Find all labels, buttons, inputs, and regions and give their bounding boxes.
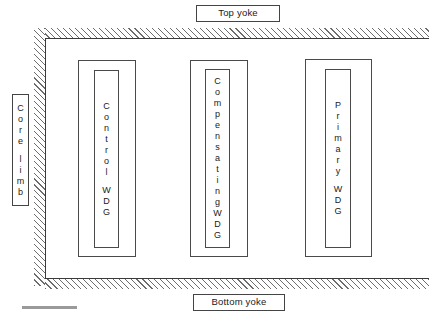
compensating-winding-char-0: C bbox=[214, 76, 221, 87]
transformer-core-diagram: Top yoke Core limb Control WDG Compensat… bbox=[0, 0, 429, 317]
compensating-winding-char-1: o bbox=[215, 87, 220, 98]
control-winding-char-1: o bbox=[104, 112, 109, 123]
core-window-left-edge bbox=[45, 38, 46, 279]
compensating-winding-char-10: n bbox=[215, 186, 220, 197]
control-winding-char-7 bbox=[105, 178, 108, 185]
control-winding-char-4: r bbox=[105, 145, 108, 156]
primary-winding-char-5: r bbox=[337, 155, 340, 166]
core-limb-char-4 bbox=[19, 147, 22, 154]
core-limb-char-5: l bbox=[20, 154, 22, 165]
compensating-winding-char-13: D bbox=[214, 219, 221, 230]
core-limb-char-2: r bbox=[19, 125, 22, 136]
control-winding-char-5: o bbox=[104, 156, 109, 167]
core-bottom-yoke-hatching bbox=[45, 278, 429, 289]
primary-winding-char-3: m bbox=[334, 133, 342, 144]
compensating-winding-char-4: e bbox=[215, 120, 220, 131]
primary-winding-char-2: i bbox=[337, 122, 339, 133]
primary-winding-char-7 bbox=[337, 177, 340, 184]
compensating-winding-char-12: W bbox=[213, 208, 222, 219]
control-winding-char-3: t bbox=[105, 134, 108, 145]
compensating-winding-char-5: n bbox=[215, 131, 220, 142]
compensating-winding-char-2: m bbox=[214, 98, 222, 109]
core-limb-char-7: m bbox=[17, 176, 25, 187]
winding-inner-primary: Primary WDG bbox=[325, 69, 351, 248]
control-winding-char-2: n bbox=[104, 123, 109, 134]
core-limb-char-1: o bbox=[18, 114, 23, 125]
primary-winding-char-0: P bbox=[335, 100, 341, 111]
winding-inner-control: Control WDG bbox=[94, 70, 119, 248]
compensating-winding-char-6: s bbox=[215, 142, 220, 153]
core-window-bottom-edge bbox=[45, 278, 429, 279]
control-winding-char-8: W bbox=[102, 185, 111, 196]
core-limb-char-0: C bbox=[17, 103, 24, 114]
compensating-winding-char-8: t bbox=[216, 164, 219, 175]
primary-winding-char-1: r bbox=[337, 111, 340, 122]
core-left-limb-hatching bbox=[34, 28, 45, 286]
primary-winding-char-4: a bbox=[335, 144, 340, 155]
compensating-winding-char-14: G bbox=[214, 230, 221, 241]
winding-inner-compensating: CompensatingWDG bbox=[205, 69, 230, 248]
core-window-top-edge bbox=[45, 38, 429, 39]
primary-winding-char-8: W bbox=[334, 184, 343, 195]
control-winding-char-10: G bbox=[103, 207, 110, 218]
control-winding-char-9: D bbox=[103, 196, 110, 207]
core-limb-char-6: i bbox=[20, 165, 22, 176]
compensating-winding-char-11: g bbox=[215, 197, 220, 208]
top-yoke-label: Top yoke bbox=[196, 5, 280, 22]
control-winding-char-0: C bbox=[103, 101, 110, 112]
bottom-yoke-label: Bottom yoke bbox=[193, 294, 285, 311]
primary-winding-char-9: D bbox=[335, 195, 342, 206]
core-limb-char-8: b bbox=[18, 187, 23, 198]
compensating-winding-char-3: p bbox=[215, 109, 220, 120]
compensating-winding-char-7: a bbox=[215, 153, 220, 164]
compensating-winding-char-9: i bbox=[217, 175, 219, 186]
core-limb-label: Core limb bbox=[12, 94, 29, 206]
primary-winding-char-10: G bbox=[334, 206, 341, 217]
scale-rule bbox=[22, 306, 77, 309]
